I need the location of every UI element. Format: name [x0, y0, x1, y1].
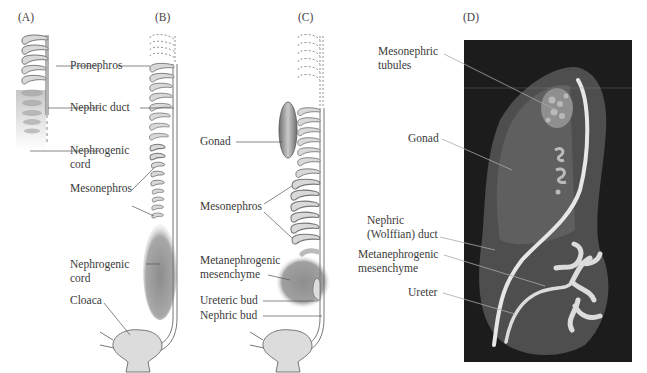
label-pronephros: Pronephros — [70, 59, 122, 72]
label-nephric-duct-d-2: (Wolffian) duct — [367, 228, 438, 241]
label-metanephrogenic-d-1: Metanephrogenic — [358, 248, 438, 261]
label-nephrogenic-cord-1b: cord — [70, 158, 90, 171]
pronephric-tubules-a — [22, 35, 48, 84]
label-gonad-d: Gonad — [408, 132, 439, 145]
nephrogenic-cord-b — [143, 224, 177, 320]
cloaca-b — [113, 330, 162, 372]
tubules-b — [149, 63, 174, 218]
label-mesonephros-b: Mesonephros — [70, 182, 132, 195]
label-nephric-duct: Nephric duct — [70, 101, 130, 114]
label-metanephrogenic-2: mesenchyme — [200, 268, 260, 281]
label-mesonephric-tubules-1: Mesonephric — [378, 45, 438, 58]
panel-label-b: (B) — [155, 11, 170, 23]
panel-d-micrograph — [440, 40, 632, 362]
panel-label-a: (A) — [18, 11, 34, 23]
panel-label-c: (C) — [298, 11, 313, 23]
label-ureteric-bud: Ureteric bud — [200, 294, 258, 307]
panel-label-d: (D) — [463, 11, 479, 23]
label-metanephrogenic-1: Metanephrogenic — [200, 254, 280, 267]
label-metanephrogenic-d-2: mesenchyme — [358, 262, 418, 275]
label-nephric-duct-d-1: Nephric — [367, 214, 404, 227]
panel-b-drawing — [100, 34, 177, 372]
label-mesonephros-c: Mesonephros — [200, 200, 262, 213]
label-mesonephric-tubules-2: tubules — [378, 59, 411, 72]
label-nephrogenic-cord-1: Nephrogenic — [70, 144, 129, 157]
label-nephrogenic-cord-2: Nephrogenic — [70, 258, 129, 271]
gonad-c — [279, 102, 297, 158]
panel-a-drawing — [16, 35, 100, 151]
label-gonad-c: Gonad — [200, 135, 231, 148]
label-nephric-bud: Nephric bud — [200, 309, 257, 322]
cloaca-c — [263, 330, 312, 372]
label-ureter: Ureter — [408, 286, 437, 299]
label-cloaca: Cloaca — [70, 294, 102, 307]
label-nephrogenic-cord-2b: cord — [70, 272, 90, 285]
